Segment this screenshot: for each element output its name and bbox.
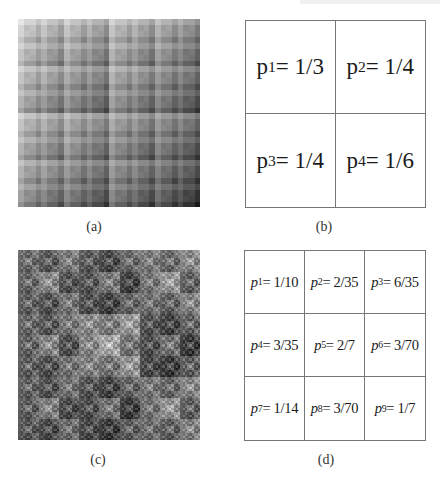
page-header-remnant [300, 0, 440, 4]
grid-cell-p1: p1 = 1/3 [246, 21, 336, 114]
panel-a-multifractal-image [18, 19, 200, 207]
grid-cell-p9: p9 = 1/7 [365, 377, 425, 440]
panel-d-probability-grid: p1 = 1/10 p2 = 2/35 p3 = 6/35 p4 = 3/35 … [244, 250, 426, 441]
grid-cell-p7: p7 = 1/14 [245, 377, 305, 440]
grid-cell-p5: p5 = 2/7 [305, 314, 365, 377]
grid-cell-p8: p8 = 3/70 [305, 377, 365, 440]
grid-cell-p3: p3 = 6/35 [365, 251, 425, 314]
panel-b-probability-grid: p1 = 1/3 p2 = 1/4 p3 = 1/4 p4 = 1/6 [245, 20, 426, 208]
panel-c-multifractal-image [18, 250, 200, 440]
grid-cell-p4: p4 = 3/35 [245, 314, 305, 377]
grid-cell-p2: p2 = 1/4 [336, 21, 426, 114]
grid-cell-p3: p3 = 1/4 [246, 114, 336, 207]
grid-cell-p2: p2 = 2/35 [305, 251, 365, 314]
grid-cell-p6: p6 = 3/70 [365, 314, 425, 377]
caption-d: (d) [306, 452, 346, 468]
caption-c: (c) [78, 452, 118, 468]
multifractal-3x3-canvas [18, 250, 200, 440]
grid-cell-p1: p1 = 1/10 [245, 251, 305, 314]
caption-b: (b) [304, 219, 344, 235]
grid-cell-p4: p4 = 1/6 [336, 114, 426, 207]
caption-a: (a) [74, 219, 114, 235]
multifractal-2x2-canvas [18, 19, 200, 207]
